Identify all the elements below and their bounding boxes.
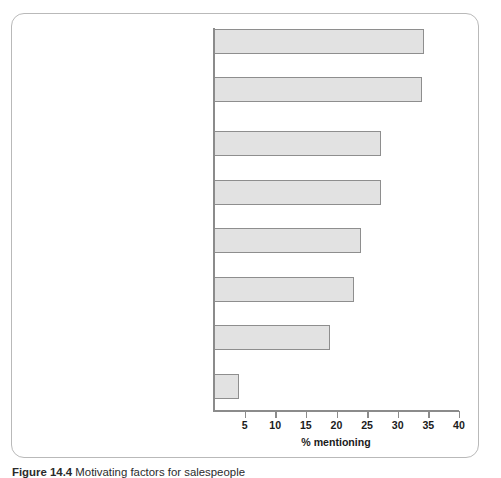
bar-7 (214, 374, 239, 399)
x-axis-tick (275, 411, 276, 418)
x-axis-tick-label: 35 (411, 419, 445, 431)
bar-1 (214, 77, 422, 102)
bar-2 (214, 131, 381, 156)
x-axis-tick (306, 411, 307, 418)
x-axis-tick-label: 5 (228, 419, 262, 431)
figure-caption: Figure 14.4 Motivating factors for sales… (12, 466, 245, 478)
x-axis-tick (428, 411, 429, 418)
x-axis-tick-label: 25 (350, 419, 384, 431)
x-axis-tick (398, 411, 399, 418)
bar-6 (214, 325, 330, 350)
x-axis-tick-label: 30 (381, 419, 415, 431)
bar-3 (214, 180, 381, 205)
x-axis-tick-label: 15 (289, 419, 323, 431)
y-axis-line (213, 28, 215, 411)
x-axis-tick (337, 411, 338, 418)
x-axis-tick-label: 20 (320, 419, 354, 431)
bar-5 (214, 277, 354, 302)
bar-0 (214, 29, 424, 54)
figure-caption-number: Figure 14.4 (12, 466, 72, 478)
x-axis-tick (367, 411, 368, 418)
x-axis-tick (245, 411, 246, 418)
bar-4 (214, 228, 361, 253)
x-axis-tick-label: 10 (258, 419, 292, 431)
figure-caption-text: Motivating factors for salespeople (75, 466, 245, 478)
x-axis-tick (459, 411, 460, 418)
x-axis-tick-label: 40 (442, 419, 476, 431)
x-axis-title: % mentioning (213, 436, 459, 448)
